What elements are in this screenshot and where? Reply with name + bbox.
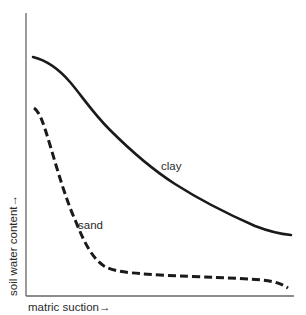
sand-label: sand bbox=[78, 219, 103, 231]
x-axis-label: matric suction→ bbox=[28, 301, 110, 313]
y-axis-label: soil water content→ bbox=[7, 195, 19, 296]
clay-curve bbox=[33, 57, 291, 235]
soil-water-retention-chart: clay sand matric suction→ soil water con… bbox=[0, 0, 306, 315]
clay-label: clay bbox=[161, 160, 182, 172]
sand-curve bbox=[34, 108, 288, 288]
